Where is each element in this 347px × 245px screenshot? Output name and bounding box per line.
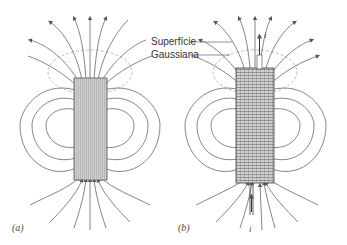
annotation-gaussiana: Gaussiana [151,50,199,60]
current-lead-top [257,55,262,69]
panel-label-b: (b) [178,222,190,233]
panel-a [20,18,160,230]
current-label-top: i [264,30,267,40]
current-label-bottom: i [249,224,252,234]
annotation-superficie: Superfície [151,37,196,47]
panel-b [185,18,326,230]
panel-label-a: (a) [12,222,24,233]
bar-magnet [74,78,107,180]
solenoid [236,68,274,183]
